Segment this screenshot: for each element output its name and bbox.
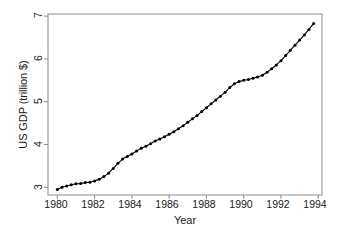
plot-area bbox=[0, 0, 342, 237]
plot-frame bbox=[48, 14, 322, 195]
gdp-line-chart-figure: US GDP (trillion $) 7 6 5 4 3 1980 1982 … bbox=[0, 0, 342, 237]
